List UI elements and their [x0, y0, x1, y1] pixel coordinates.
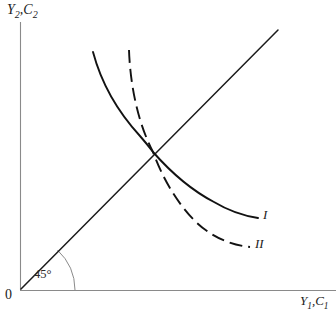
origin-label: 0 [5, 288, 12, 302]
curve-two-label: II [255, 237, 264, 250]
x-axis-label: Y1,C1 [300, 294, 329, 311]
angle-arc-45 [58, 250, 76, 290]
curve-two-path [129, 50, 250, 247]
figure-canvas: Y2,C2 Y1,C1 0 45° I II [0, 0, 336, 314]
y-axis-label: Y2,C2 [7, 3, 38, 20]
angle-label-45-degrees: 45° [34, 268, 52, 281]
curve-one-path [93, 52, 258, 218]
forty-five-degree-ray [21, 30, 278, 289]
curve-one-label: I [263, 208, 267, 221]
